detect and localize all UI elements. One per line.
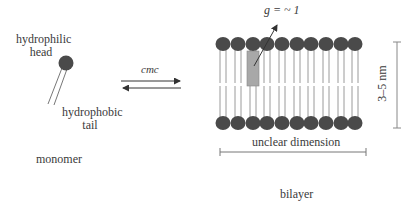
monomer-caption: monomer (36, 153, 82, 166)
head-label: hydrophilic head (16, 33, 66, 59)
bilayer-icon (216, 25, 363, 130)
thickness-scale-bar (393, 42, 401, 128)
cmc-label: cmc (141, 63, 159, 76)
head-label-line2: head (16, 46, 66, 59)
thickness-label: 3–5 nm (376, 64, 389, 104)
tail-label-line2: tail (62, 119, 118, 132)
width-label: unclear dimension (252, 136, 340, 149)
diagram-canvas (0, 0, 415, 206)
bilayer-caption: bilayer (280, 188, 313, 201)
tail-label: hydrophobic tail (62, 106, 118, 132)
monomer-icon (48, 56, 74, 106)
packing-parameter-label: g = ~ 1 (264, 4, 300, 17)
equilibrium-arrows-icon (121, 81, 181, 88)
width-scale-bar (220, 148, 366, 156)
highlight-box (247, 51, 259, 86)
